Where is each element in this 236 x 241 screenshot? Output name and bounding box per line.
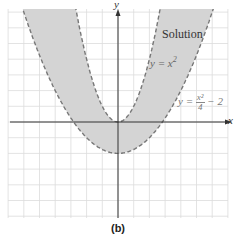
- y-axis-label: y: [114, 0, 119, 10]
- equation-label-outer: y = x²4 − 2: [178, 93, 223, 112]
- figure-caption: (b): [0, 222, 236, 234]
- eq1-text: y = x: [150, 57, 173, 69]
- eq2-rhs: − 2: [205, 95, 223, 107]
- eq1-exponent: 2: [173, 55, 177, 64]
- eq2-denominator: 4: [196, 103, 205, 112]
- eq2-fraction: x²4: [196, 93, 205, 112]
- solution-label: Solution: [162, 27, 203, 42]
- eq2-lhs: y =: [178, 95, 196, 107]
- equation-label-inner: y = x2: [150, 55, 177, 69]
- x-axis-label: x: [228, 114, 233, 126]
